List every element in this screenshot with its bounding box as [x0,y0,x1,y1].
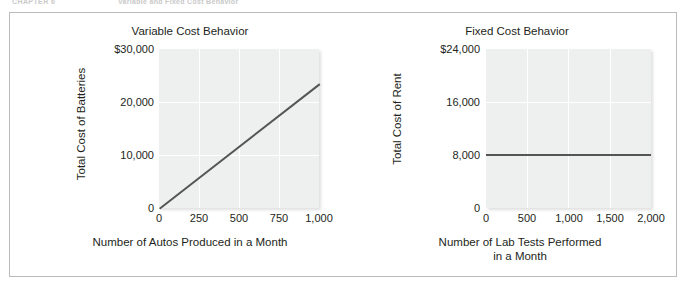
y-axis-label: Total Cost of Batteries [75,49,87,199]
y-tick-label: 0 [84,202,154,214]
gridline-vertical [610,49,611,208]
page-header: CHAPTER 6 Variable and Fixed Cost Behavi… [0,0,685,11]
gridline-vertical [239,49,240,208]
gridline-vertical [279,49,280,208]
x-tick-label: 500 [230,212,248,224]
x-tick-label: 1,500 [596,212,624,224]
x-tick-label: 1,000 [305,212,333,224]
y-tick-label: 16,000 [408,96,480,108]
header-chapter-label: CHAPTER 6 [12,0,55,5]
gridline-horizontal [159,155,319,156]
x-axis-label: Number of Autos Produced in a Month [50,235,330,249]
y-tick-label: 8,000 [408,149,480,161]
gridline-vertical [199,49,200,208]
x-tick-label: 750 [270,212,288,224]
y-tick-label: 10,000 [84,149,154,161]
chart-title: Fixed Cost Behavior [340,25,678,37]
y-tick-label: 0 [408,202,480,214]
y-tick-label: $30,000 [84,43,154,55]
chart-variable-cost-behavior: Variable Cost Behavior Total Cost of Bat… [10,13,348,278]
chart-fixed-cost-behavior: Fixed Cost Behavior Total Cost of Rent $… [340,13,678,278]
x-tick-label: 250 [190,212,208,224]
x-tick-label: 500 [518,212,536,224]
plot-area [159,49,319,208]
x-axis-label: Number of Lab Tests Performed in a Month [375,235,665,263]
x-tick-label: 1,000 [555,212,583,224]
figure-frame: Variable Cost Behavior Total Cost of Bat… [9,12,677,277]
gridline-horizontal [486,102,651,103]
y-axis-label: Total Cost of Rent [391,44,403,194]
series-line-fixed-cost [486,154,651,156]
plot-area [486,49,651,208]
x-axis-label-line-1: Number of Lab Tests Performed [375,235,665,249]
header-title-label: Variable and Fixed Cost Behavior [118,0,238,5]
chart-title: Variable Cost Behavior [10,25,348,37]
x-tick-label: 0 [483,212,489,224]
x-axis-label-line-2: in a Month [375,249,665,263]
y-tick-label: $24,000 [408,43,480,55]
x-tick-label: 0 [156,212,162,224]
y-tick-label: 20,000 [84,96,154,108]
x-tick-label: 2,000 [637,212,665,224]
gridline-vertical [527,49,528,208]
gridline-vertical [568,49,569,208]
